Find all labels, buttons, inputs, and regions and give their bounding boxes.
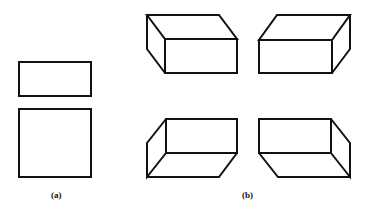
panel-a-label: (a) <box>51 190 62 200</box>
top-view-rectangle <box>19 62 91 96</box>
panel-b-label: (b) <box>242 190 253 200</box>
box-top-left <box>147 15 237 73</box>
box-top-right <box>259 15 350 73</box>
figure-canvas <box>0 0 367 214</box>
box-bottom-left <box>147 119 237 177</box>
box-bottom-right <box>259 119 350 177</box>
front-view-square <box>19 109 91 177</box>
